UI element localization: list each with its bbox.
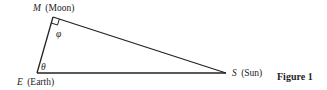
side-moon-sun bbox=[53, 17, 226, 73]
sun-symbol: S bbox=[232, 68, 237, 78]
angle-theta-label: θ bbox=[41, 62, 46, 72]
earth-name: (Earth) bbox=[27, 77, 54, 88]
sun-name: (Sun) bbox=[241, 68, 262, 79]
label-moon: M (Moon) bbox=[32, 3, 74, 14]
moon-name: (Moon) bbox=[45, 3, 74, 14]
angle-phi-label: φ bbox=[56, 29, 61, 39]
figure-caption: Figure 1 bbox=[277, 71, 313, 82]
label-earth: E (Earth) bbox=[16, 77, 54, 88]
triangle-diagram: M (Moon) E (Earth) S (Sun) φ θ Figure 1 bbox=[0, 0, 327, 90]
earth-symbol: E bbox=[16, 77, 23, 87]
moon-symbol: M bbox=[32, 3, 42, 13]
label-sun: S (Sun) bbox=[232, 68, 262, 79]
